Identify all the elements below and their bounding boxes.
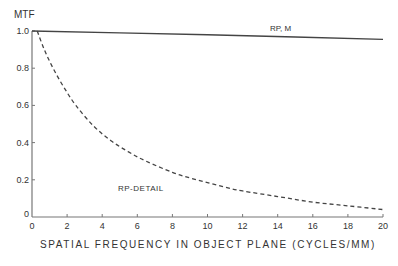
mtf-chart: 0246810121416182000.20.40.60.81.0 MTF SP…: [0, 0, 398, 266]
y-tick-label: 0.6: [16, 100, 29, 110]
series-label-rp-m: RP, M: [270, 24, 292, 33]
x-tick-label: 12: [238, 221, 248, 231]
ticks: 0246810121416182000.20.40.60.81.0: [16, 26, 388, 231]
y-tick-label: 1.0: [16, 26, 29, 36]
x-tick-label: 2: [65, 221, 70, 231]
x-tick-label: 10: [202, 221, 212, 231]
series-rp-m-line: [32, 31, 383, 39]
x-tick-label: 18: [343, 221, 353, 231]
y-tick-label: 0.8: [16, 63, 29, 73]
x-tick-label: 0: [29, 221, 34, 231]
y-axis-title: MTF: [14, 9, 35, 20]
x-tick-label: 14: [273, 221, 283, 231]
y-tick-label: 0.4: [16, 138, 29, 148]
y-tick-label: 0.2: [16, 175, 29, 185]
x-tick-label: 20: [378, 221, 388, 231]
x-tick-label: 6: [135, 221, 140, 231]
x-tick-label: 8: [170, 221, 175, 231]
x-axis-title: SPATIAL FREQUENCY IN OBJECT PLANE (CYCLE…: [40, 239, 376, 250]
series: [32, 31, 383, 210]
y-tick-label: 0: [24, 209, 29, 219]
x-tick-label: 16: [308, 221, 318, 231]
x-tick-label: 4: [100, 221, 105, 231]
series-label-rp-detail: RP-DETAIL: [118, 184, 164, 193]
axes: [32, 31, 383, 217]
series-rp-detail-line: [37, 31, 383, 210]
